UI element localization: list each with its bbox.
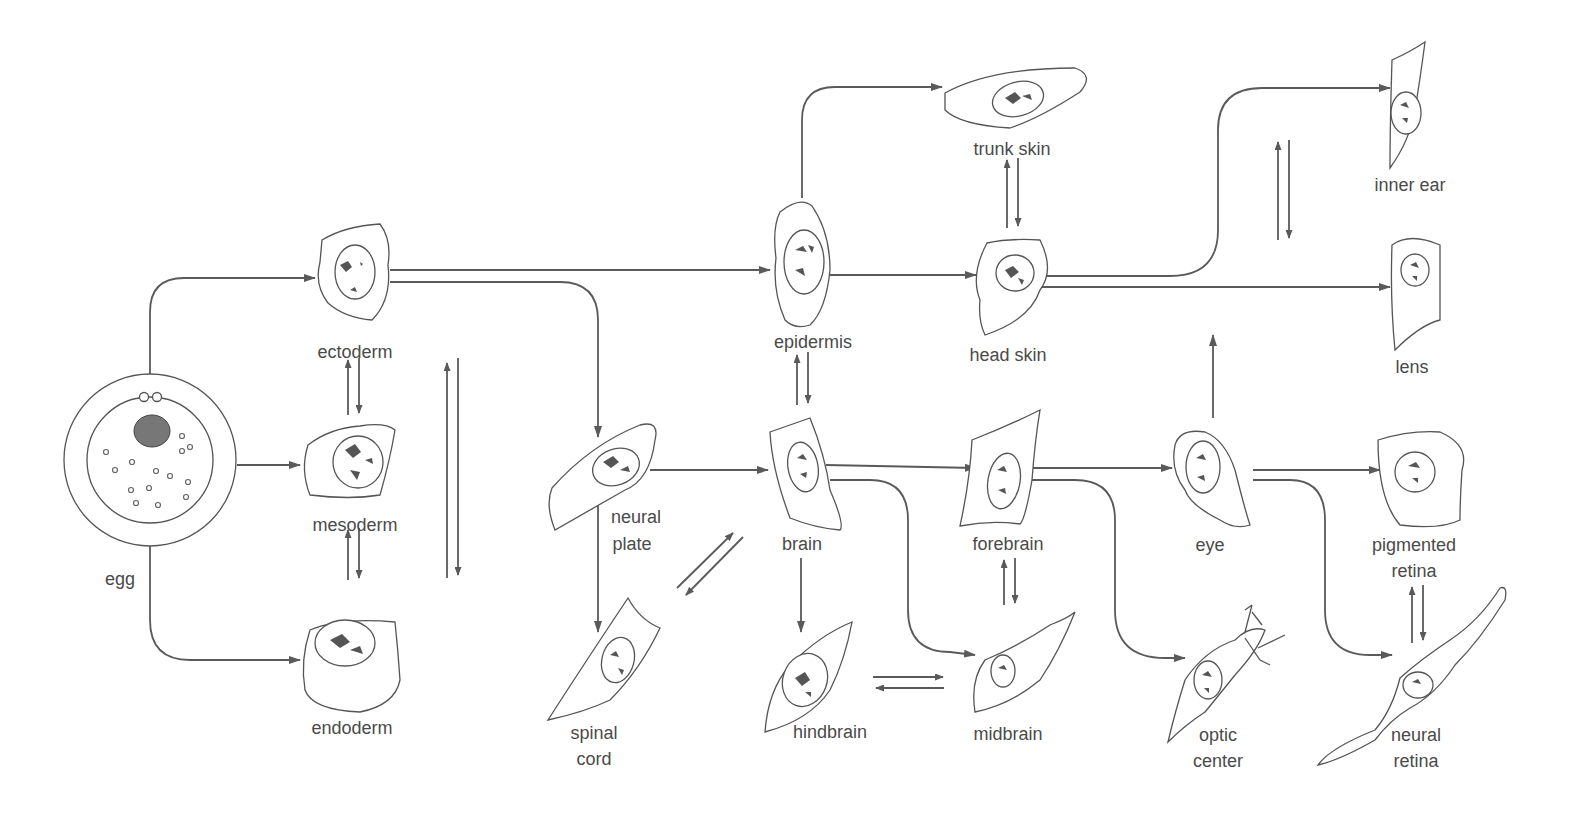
label-hindbrain: hindbrain <box>793 720 867 744</box>
arrow-ectoderm-neural-plate <box>390 282 598 437</box>
diagram-canvas <box>0 0 1573 828</box>
endoderm-cell <box>303 620 400 712</box>
label-neural-plate-line1: neural <box>611 505 661 529</box>
label-mesoderm: mesoderm <box>312 513 397 537</box>
label-neural-retina-line1: neural <box>1391 723 1441 747</box>
label-lens: lens <box>1395 355 1428 379</box>
pigmented-retina-cell <box>1378 432 1464 527</box>
midbrain-cell <box>974 612 1075 712</box>
label-spinal-cord-line1: spinal <box>570 721 617 745</box>
spinal-cord-cell <box>548 598 660 720</box>
arrow-eye-neuralretina <box>1253 480 1392 655</box>
label-spinal-cord-line2: cord <box>576 747 611 771</box>
optic-center-cell <box>1168 605 1285 742</box>
label-neural-plate-line2: plate <box>612 532 651 556</box>
eye-cell <box>1174 431 1250 526</box>
label-epidermis: epidermis <box>774 330 852 354</box>
mesoderm-cell <box>304 425 395 498</box>
label-midbrain: midbrain <box>973 722 1042 746</box>
ectoderm-cell <box>318 224 389 320</box>
label-brain: brain <box>782 532 822 556</box>
label-optic-center-line1: optic <box>1199 723 1237 747</box>
label-endoderm: endoderm <box>311 716 392 740</box>
arrow-egg-ectoderm <box>150 278 315 375</box>
label-inner-ear: inner ear <box>1374 173 1445 197</box>
label-ectoderm: ectoderm <box>317 340 392 364</box>
label-optic-center-line2: center <box>1193 749 1243 773</box>
label-eye: eye <box>1195 533 1224 557</box>
cell-lineage-diagram: egg ectoderm mesoderm endoderm neural pl… <box>0 0 1573 828</box>
reversible-arrows <box>348 140 1423 688</box>
label-trunk-skin: trunk skin <box>973 137 1050 161</box>
arrow-brain-forebrain <box>826 465 976 468</box>
arrow-epidermis-trunkskin <box>802 87 942 198</box>
label-pigmented-retina-line1: pigmented <box>1372 533 1456 557</box>
brain-cell <box>770 418 841 530</box>
forebrain-cell <box>960 410 1040 526</box>
lineage-arrows <box>150 87 1392 660</box>
label-pigmented-retina-line2: retina <box>1391 559 1436 583</box>
epidermis-cell <box>775 202 830 327</box>
arrow-headskin-innerear <box>1040 88 1390 276</box>
label-egg: egg <box>105 567 135 591</box>
label-forebrain: forebrain <box>972 532 1043 556</box>
label-head-skin: head skin <box>969 343 1046 367</box>
arrow-brain-midbrain <box>830 480 975 655</box>
label-neural-retina-line2: retina <box>1393 749 1438 773</box>
egg-cell <box>64 374 236 546</box>
arrow-egg-endoderm <box>150 545 300 660</box>
inner-ear-cell <box>1390 42 1425 168</box>
lens-cell <box>1391 239 1440 351</box>
trunk-skin-cell <box>945 68 1086 128</box>
head-skin-cell <box>976 239 1047 335</box>
hindbrain-cell <box>765 622 852 732</box>
